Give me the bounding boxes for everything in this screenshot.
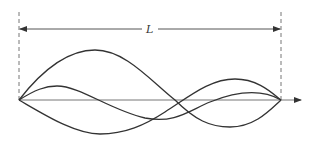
mode-curve-2: [19, 86, 281, 119]
standing-wave-diagram: L: [0, 0, 316, 144]
mode-curve-1: [19, 50, 281, 127]
dimension-label: L: [145, 23, 153, 36]
diagram-canvas: L: [0, 0, 316, 144]
